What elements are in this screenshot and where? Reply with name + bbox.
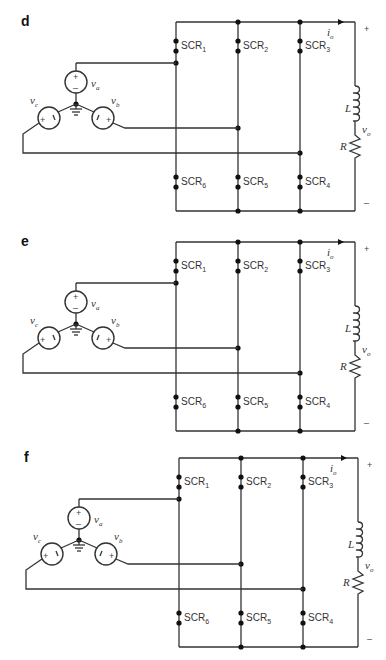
- vo-label-subscript: o: [367, 350, 371, 358]
- vb-plus-sign: +: [109, 551, 114, 561]
- scr-terminal: [235, 184, 240, 189]
- scr-label-upper-text: SCR: [243, 260, 264, 271]
- scr-terminal: [297, 184, 302, 189]
- panel-label: e: [21, 233, 29, 249]
- vc-label: vc: [33, 530, 42, 545]
- io-label-subscript: o: [333, 469, 337, 477]
- vo-minus-sign: –: [364, 418, 369, 428]
- va-minus-sign: –: [73, 303, 78, 313]
- scr-terminal: [297, 404, 302, 409]
- va-minus-sign: –: [73, 83, 78, 93]
- scr-label-upper: SCR3: [305, 260, 330, 273]
- scr-terminal: [173, 404, 178, 409]
- vb-label-subscript: b: [116, 321, 120, 329]
- scr-label-upper-text: SCR: [243, 40, 264, 51]
- bottom-node: [235, 208, 240, 213]
- scr-label-lower-text: SCR: [181, 396, 202, 407]
- scr-terminal: [297, 48, 302, 53]
- io-label: io: [327, 26, 334, 41]
- va-plus-sign: +: [73, 292, 78, 302]
- circuit-figure: dSCR1SCR6SCR2SCR5SCR3SCR4io+–LRvo+–++vav…: [0, 0, 386, 660]
- inductor-label: L: [347, 538, 354, 550]
- scr-label-lower: SCR5: [246, 612, 271, 625]
- scr-terminal: [173, 268, 178, 273]
- scr-terminal: [300, 484, 305, 489]
- va-plus-sign-text: +: [73, 292, 78, 302]
- vo-label: vo: [365, 559, 374, 574]
- bottom-node: [297, 208, 302, 213]
- circuit-panel-d: dSCR1SCR6SCR2SCR5SCR3SCR4io+–LRvo+–++vav…: [21, 13, 371, 214]
- va-label-subscript: a: [99, 520, 103, 528]
- scr-label-lower-text: SCR: [305, 396, 326, 407]
- vb-label-subscript: b: [119, 537, 123, 545]
- neutral-wire-c: [58, 104, 76, 112]
- current-arrow-icon: [338, 19, 344, 25]
- neutral-wire-b: [76, 324, 94, 332]
- scr-label-upper-subscript: 1: [202, 46, 206, 53]
- vb-label-subscript: b: [116, 101, 120, 109]
- io-label: io: [327, 246, 334, 261]
- circuit-panel-e: eSCR1SCR6SCR2SCR5SCR3SCR4io+–LRvo+–++vav…: [21, 233, 371, 434]
- scr-label-upper-subscript: 2: [267, 482, 271, 489]
- resistor-label: R: [342, 576, 350, 588]
- scr-label-lower-subscript: 6: [205, 618, 209, 625]
- panel-label: d: [21, 13, 30, 29]
- va-label: va: [91, 77, 100, 92]
- scr-label-lower-text: SCR: [184, 612, 205, 623]
- scr-terminal: [297, 174, 302, 179]
- inductor-label-text: L: [347, 538, 354, 550]
- scr-terminal: [176, 620, 181, 625]
- scr-label-lower-text: SCR: [243, 176, 264, 187]
- scr-label-upper-text: SCR: [181, 260, 202, 271]
- vo-label: vo: [362, 123, 371, 138]
- scr-terminal: [238, 484, 243, 489]
- scr-label-upper-subscript: 1: [205, 482, 209, 489]
- scr-label-upper-text: SCR: [305, 260, 326, 271]
- va-plus-sign-text: +: [73, 72, 78, 82]
- va-plus-sign-text: +: [76, 508, 81, 518]
- current-arrow-icon: [341, 455, 347, 461]
- vb-label: vb: [111, 314, 120, 329]
- scr-label-upper-text: SCR: [308, 476, 329, 487]
- scr-label-lower: SCR6: [181, 396, 206, 409]
- scr-label-upper: SCR2: [243, 40, 268, 53]
- scr-label-lower: SCR4: [308, 612, 333, 625]
- va-minus-sign-text: –: [76, 519, 81, 529]
- io-label-subscript: o: [330, 253, 334, 261]
- vc-label-subscript: c: [35, 101, 39, 109]
- scr-label-lower-subscript: 5: [264, 402, 268, 409]
- vo-label-subscript: o: [367, 130, 371, 138]
- scr-label-lower: SCR4: [305, 396, 330, 409]
- va-minus-sign-text: –: [73, 303, 78, 313]
- scr-label-upper: SCR2: [246, 476, 271, 489]
- scr-label-upper-text: SCR: [184, 476, 205, 487]
- scr-terminal: [235, 268, 240, 273]
- scr-terminal: [235, 38, 240, 43]
- vo-label-subscript: o: [370, 566, 374, 574]
- scr-terminal: [238, 474, 243, 479]
- top-node: [300, 455, 305, 460]
- vb-plus-sign-text: +: [106, 115, 111, 125]
- vb-label: vb: [111, 94, 120, 109]
- scr-terminal: [176, 484, 181, 489]
- scr-label-upper: SCR3: [305, 40, 330, 53]
- scr-label-lower-subscript: 4: [326, 402, 330, 409]
- vo-minus-sign: –: [364, 198, 369, 208]
- scr-label-lower-subscript: 4: [326, 182, 330, 189]
- va-label: va: [91, 297, 100, 312]
- neutral-wire-b: [76, 104, 94, 112]
- vb-plus-sign-text: +: [109, 551, 114, 561]
- scr-label-lower: SCR6: [181, 176, 206, 189]
- scr-label-upper: SCR1: [184, 476, 209, 489]
- scr-terminal: [235, 394, 240, 399]
- vb-label: vb: [114, 530, 123, 545]
- vc-plus-sign-text: +: [43, 551, 48, 561]
- bottom-node: [300, 644, 305, 649]
- circuit-panel-f: fSCR1SCR6SCR2SCR5SCR3SCR4io+–LRvo+–++vav…: [24, 449, 374, 650]
- scr-terminal: [176, 610, 181, 615]
- scr-terminal: [176, 474, 181, 479]
- scr-label-upper: SCR2: [243, 260, 268, 273]
- va-plus-sign: +: [76, 508, 81, 518]
- vo-plus-sign-text: +: [364, 244, 369, 254]
- scr-terminal: [173, 48, 178, 53]
